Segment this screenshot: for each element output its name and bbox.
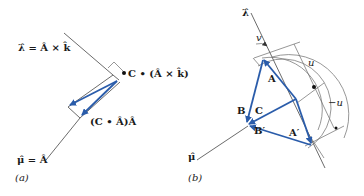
vector-c-label: C bbox=[255, 105, 263, 116]
vector-a-prime-label: A′ bbox=[288, 127, 300, 138]
mu-label-b: μ̂ bbox=[188, 151, 195, 162]
vector-b-label: B bbox=[237, 105, 245, 116]
panel-b: λ̂ v u −u A B C A′ B′ μ̂ (b) bbox=[188, 7, 349, 183]
mu-axis-a-upper bbox=[80, 82, 120, 118]
cross-component-label: C • (Â × k̂) bbox=[128, 67, 189, 79]
v-label: v bbox=[256, 32, 262, 43]
vector-a-label: A bbox=[267, 73, 276, 84]
lambda-label-b: λ̂ bbox=[242, 7, 249, 18]
mu-axis-a bbox=[46, 118, 80, 160]
caption-b: (b) bbox=[188, 172, 202, 183]
caption-a: (a) bbox=[15, 172, 29, 183]
u-label: u bbox=[308, 57, 314, 68]
point-c-a bbox=[122, 71, 126, 75]
dot-component-label: (C • Â)Â bbox=[90, 116, 137, 127]
vector-c-a bbox=[70, 81, 117, 105]
mu-label-a: μ̂ = Â bbox=[17, 154, 48, 165]
panel-a: λ̂ = Â × k̂ C • (Â × k̂) (C • Â)Â μ̂ = Â… bbox=[15, 33, 189, 183]
center-point bbox=[312, 85, 316, 89]
projection-rect-left bbox=[68, 75, 113, 118]
projection-rect-top bbox=[113, 75, 119, 80]
cross-component-bracket bbox=[108, 62, 125, 73]
lambda-axis-a bbox=[64, 33, 113, 75]
tick-a bbox=[253, 58, 260, 66]
lambda-label-a: λ̂ = Â × k̂ bbox=[18, 41, 71, 53]
vector-projection-a bbox=[82, 81, 117, 115]
mu-axis-b bbox=[197, 126, 248, 160]
neg-u-label: −u bbox=[328, 97, 343, 108]
vector-diagram: λ̂ = Â × k̂ C • (Â × k̂) (C • Â)Â μ̂ = Â… bbox=[0, 0, 364, 196]
vector-b-prime-label: B′ bbox=[254, 125, 265, 136]
point-neg-u bbox=[335, 127, 338, 130]
